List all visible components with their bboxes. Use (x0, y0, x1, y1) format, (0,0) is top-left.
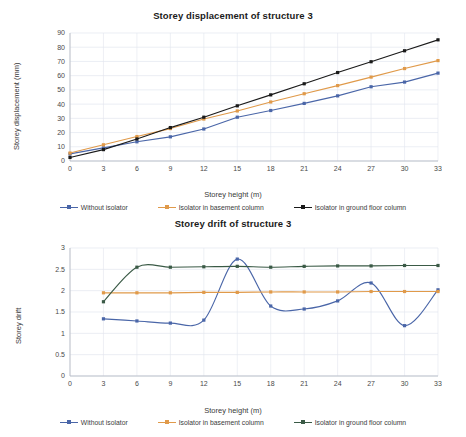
chart2-legend-item-isolator-ground[interactable]: Isolator in ground floor column (294, 419, 406, 426)
chart2-legend: Without isolator Isolator in basement co… (0, 419, 466, 426)
chart1-legend: Without isolator Isolator in basement co… (0, 204, 466, 211)
chart2-legend-label-isolator-ground: Isolator in ground floor column (315, 419, 406, 426)
svg-text:30: 30 (57, 115, 65, 122)
svg-text:0.5: 0.5 (55, 351, 65, 358)
svg-text:0: 0 (68, 380, 72, 387)
chart1-svg: 010203040506070809003691215182124273033 (44, 27, 442, 179)
chart1-legend-label-isolator-ground: Isolator in ground floor column (315, 204, 406, 211)
chart1-plot-area: 010203040506070809003691215182124273033 (44, 27, 442, 179)
svg-text:6: 6 (135, 165, 139, 172)
svg-text:2.5: 2.5 (55, 266, 65, 273)
svg-text:60: 60 (57, 72, 65, 79)
svg-text:18: 18 (267, 165, 275, 172)
chart2-legend-label-isolator-basement: Isolator in basement column (179, 419, 264, 426)
chart2-legend-item-isolator-basement[interactable]: Isolator in basement column (158, 419, 264, 426)
chart1-x-axis-label: Storey height (m) (0, 190, 466, 199)
svg-text:0: 0 (61, 157, 65, 164)
chart1-legend-label-without-isolator: Without isolator (81, 204, 128, 211)
line-marker-icon (60, 204, 78, 211)
svg-text:21: 21 (300, 165, 308, 172)
svg-text:18: 18 (267, 380, 275, 387)
chart2-legend-label-without-isolator: Without isolator (81, 419, 128, 426)
svg-text:24: 24 (334, 165, 342, 172)
svg-text:70: 70 (57, 58, 65, 65)
svg-text:30: 30 (401, 165, 409, 172)
line-marker-icon (60, 419, 78, 426)
svg-text:30: 30 (401, 380, 409, 387)
svg-text:12: 12 (200, 380, 208, 387)
svg-text:1.5: 1.5 (55, 308, 65, 315)
svg-text:9: 9 (168, 380, 172, 387)
line-marker-icon (294, 419, 312, 426)
chart1-legend-item-without-isolator[interactable]: Without isolator (60, 204, 128, 211)
svg-text:33: 33 (434, 165, 442, 172)
svg-text:1: 1 (61, 330, 65, 337)
svg-text:3: 3 (101, 165, 105, 172)
svg-text:80: 80 (57, 44, 65, 51)
line-marker-icon (158, 204, 176, 211)
chart-storey-displacement: Storey displacement of structure 3 Store… (0, 0, 466, 218)
chart1-legend-item-isolator-basement[interactable]: Isolator in basement column (158, 204, 264, 211)
line-marker-icon (294, 204, 312, 211)
svg-text:50: 50 (57, 86, 65, 93)
svg-text:27: 27 (367, 380, 375, 387)
figure-caption (8, 428, 458, 437)
chart2-title: Storey drift of structure 3 (0, 218, 466, 229)
chart1-legend-label-isolator-basement: Isolator in basement column (179, 204, 264, 211)
svg-text:0: 0 (61, 372, 65, 379)
chart1-title: Storey displacement of structure 3 (0, 10, 466, 21)
chart1-y-axis-label: Storey displacement (mm) (12, 62, 21, 150)
chart2-legend-item-without-isolator[interactable]: Without isolator (60, 419, 128, 426)
chart2-plot-area: 00.511.522.5303691215182124273033 (44, 242, 442, 394)
svg-text:0: 0 (68, 165, 72, 172)
figure-storey-response: Storey displacement of structure 3 Store… (0, 0, 466, 437)
svg-text:20: 20 (57, 129, 65, 136)
svg-text:90: 90 (57, 29, 65, 36)
svg-text:40: 40 (57, 101, 65, 108)
svg-text:6: 6 (135, 380, 139, 387)
svg-text:21: 21 (300, 380, 308, 387)
svg-text:15: 15 (233, 380, 241, 387)
svg-text:9: 9 (168, 165, 172, 172)
chart2-y-axis-label: Storey drift (14, 308, 23, 344)
chart-storey-drift: Storey drift of structure 3 Storey drift… (0, 216, 466, 416)
svg-text:2: 2 (61, 287, 65, 294)
chart1-legend-item-isolator-ground[interactable]: Isolator in ground floor column (294, 204, 406, 211)
svg-text:15: 15 (233, 165, 241, 172)
svg-text:33: 33 (434, 380, 442, 387)
chart2-x-axis-label: Storey height (m) (0, 406, 466, 415)
chart2-svg: 00.511.522.5303691215182124273033 (44, 242, 442, 394)
svg-text:12: 12 (200, 165, 208, 172)
line-marker-icon (158, 419, 176, 426)
svg-text:24: 24 (334, 380, 342, 387)
svg-text:10: 10 (57, 143, 65, 150)
svg-text:3: 3 (61, 244, 65, 251)
svg-text:27: 27 (367, 165, 375, 172)
svg-text:3: 3 (101, 380, 105, 387)
